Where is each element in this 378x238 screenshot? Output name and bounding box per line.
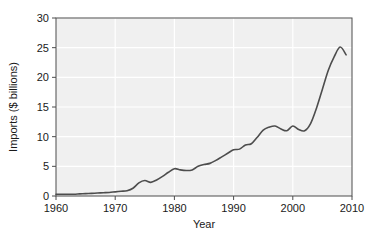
y-axis-tick-labels: 051015202530 (37, 12, 49, 202)
svg-text:2010: 2010 (340, 202, 364, 214)
y-axis-title: Imports ($ billions) (7, 62, 19, 152)
svg-text:1960: 1960 (44, 202, 68, 214)
svg-text:1980: 1980 (162, 202, 186, 214)
svg-text:1990: 1990 (221, 202, 245, 214)
svg-text:25: 25 (37, 42, 49, 54)
imports-line-chart: 051015202530 196019701980199020002010 Ye… (0, 0, 378, 238)
svg-text:30: 30 (37, 12, 49, 24)
x-axis-title: Year (193, 218, 216, 230)
svg-text:5: 5 (43, 160, 49, 172)
y-axis-ticks (52, 18, 56, 196)
svg-text:10: 10 (37, 131, 49, 143)
svg-text:15: 15 (37, 101, 49, 113)
chart-figure: 051015202530 196019701980199020002010 Ye… (0, 0, 378, 238)
svg-text:2000: 2000 (281, 202, 305, 214)
svg-text:0: 0 (43, 190, 49, 202)
svg-text:20: 20 (37, 71, 49, 83)
x-axis-tick-labels: 196019701980199020002010 (44, 202, 364, 214)
svg-text:1970: 1970 (103, 202, 127, 214)
x-axis-ticks (56, 196, 352, 200)
